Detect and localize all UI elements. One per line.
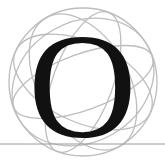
drop-cap-letter: O: [0, 2, 165, 168]
drop-cap: O: [0, 0, 165, 168]
